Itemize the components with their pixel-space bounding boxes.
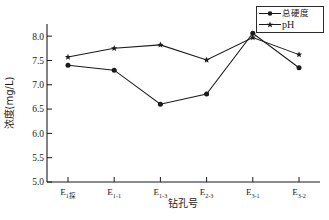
data-point[interactable]	[297, 65, 302, 70]
chart-legend: 总硬度 pH	[256, 6, 324, 33]
data-point[interactable]	[157, 42, 163, 48]
data-point[interactable]	[66, 63, 71, 68]
x-tick-label: E1探	[60, 187, 76, 200]
data-point[interactable]	[112, 68, 117, 73]
chart-canvas: 5.05.56.06.57.07.58.0 E1探E1-1E1-3E2-3E3-…	[0, 0, 329, 220]
x-tick-label: E3-1	[246, 187, 260, 199]
y-tick-label: 5.5	[32, 153, 44, 163]
x-axis-title: 钻孔号	[168, 197, 198, 209]
series-ph	[65, 34, 302, 62]
y-axis-ticks: 5.05.56.06.57.07.58.0	[32, 32, 52, 188]
y-tick-label: 8.0	[32, 32, 44, 42]
data-point[interactable]	[111, 45, 117, 51]
x-tick-label: E1-1	[107, 187, 121, 199]
legend-sample-circle	[259, 9, 281, 18]
line-chart: 5.05.56.06.57.07.58.0 E1探E1-1E1-3E2-3E3-…	[0, 0, 329, 220]
data-point[interactable]	[203, 57, 209, 63]
legend-sample-star	[259, 20, 281, 29]
x-tick-label: E1-3	[154, 187, 168, 199]
legend-label-hardness: 总硬度	[282, 8, 309, 19]
y-tick-label: 6.5	[32, 104, 44, 114]
x-tick-label: E2-3	[200, 187, 214, 199]
data-point[interactable]	[204, 92, 209, 97]
legend-item-hardness[interactable]: 总硬度	[259, 8, 321, 19]
series-line	[68, 38, 299, 60]
x-axis-ticks: E1探E1-1E1-3E2-3E3-1E3-2	[60, 177, 306, 200]
legend-label-ph: pH	[282, 19, 294, 30]
y-axis-title: 浓度(mg/L)	[3, 76, 15, 129]
data-point[interactable]	[158, 102, 163, 107]
series-line	[68, 33, 299, 104]
y-tick-label: 5.0	[32, 177, 44, 187]
y-tick-label: 7.0	[32, 80, 44, 90]
data-point[interactable]	[296, 51, 302, 57]
chart-series-layer	[65, 31, 302, 107]
y-tick-label: 7.5	[32, 56, 44, 66]
y-tick-label: 6.0	[32, 129, 44, 139]
legend-item-ph[interactable]: pH	[259, 19, 321, 30]
data-point[interactable]	[65, 54, 71, 60]
x-tick-label: E3-2	[292, 187, 306, 199]
